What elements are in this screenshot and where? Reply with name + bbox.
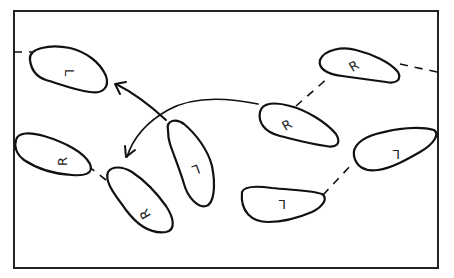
footprint-f3: R xyxy=(107,168,173,233)
footprint-label: L xyxy=(62,69,77,77)
arrow-f4-to-f1 xyxy=(116,84,166,120)
dashed-f5-to-f6 xyxy=(296,78,328,106)
footprint-f6: R xyxy=(320,48,400,82)
footprint-diagram: L R R L R R L L xyxy=(0,0,454,278)
footprint-f1: L xyxy=(30,47,107,93)
footprint-f4: L xyxy=(168,121,214,207)
footprint-label: L xyxy=(278,197,286,212)
footprint-f7: L xyxy=(354,128,437,170)
footprint-f5: R xyxy=(260,104,339,147)
footprint-f2: R xyxy=(15,133,91,175)
footprint-label: R xyxy=(55,157,70,166)
dashed-f6-to-edge-right xyxy=(400,64,437,72)
footprint-label: L xyxy=(392,147,400,162)
footprint-f8: L xyxy=(242,187,325,222)
dashed-f8-to-f7 xyxy=(323,163,353,195)
